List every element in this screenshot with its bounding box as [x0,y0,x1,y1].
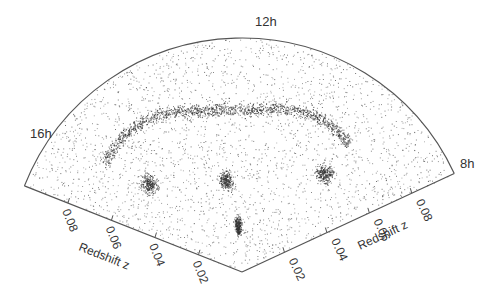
galaxy-point [223,100,224,101]
galaxy-point [96,160,97,161]
galaxy-point [254,244,255,245]
galaxy-point [232,184,233,185]
galaxy-point [78,124,79,125]
galaxy-point [241,111,242,112]
galaxy-point [321,65,322,66]
galaxy-point [157,116,158,117]
galaxy-point [191,83,192,84]
galaxy-point [300,155,301,156]
galaxy-point [327,63,328,64]
galaxy-point [417,174,418,175]
galaxy-point [102,152,103,153]
galaxy-point [372,80,373,81]
galaxy-point [291,133,292,134]
galaxy-point [333,134,334,135]
galaxy-point [261,162,262,163]
galaxy-point [271,101,272,102]
galaxy-point [133,87,134,88]
galaxy-point [229,114,230,115]
galaxy-point [200,142,201,143]
galaxy-point [331,166,332,167]
galaxy-point [227,186,228,187]
galaxy-point [304,115,305,116]
galaxy-point [281,107,282,108]
galaxy-point [306,148,307,149]
galaxy-point [364,122,365,123]
galaxy-point [268,188,269,189]
galaxy-point [281,104,282,105]
galaxy-point [121,142,122,143]
galaxy-point [358,130,359,131]
galaxy-point [280,110,281,111]
galaxy-point [225,152,226,153]
galaxy-point [115,139,116,140]
galaxy-point [180,159,181,160]
galaxy-point [297,110,298,111]
galaxy-point [105,167,106,168]
galaxy-point [57,152,58,153]
galaxy-point [257,111,258,112]
galaxy-point [325,117,326,118]
galaxy-point [138,108,139,109]
galaxy-point [204,142,205,143]
galaxy-point [128,99,129,100]
galaxy-point [121,158,122,159]
galaxy-point [235,225,236,226]
galaxy-point [168,113,169,114]
galaxy-point [167,115,168,116]
galaxy-point [274,47,275,48]
galaxy-point [311,137,312,138]
galaxy-point [282,71,283,72]
galaxy-point [239,104,240,105]
galaxy-point [123,215,124,216]
galaxy-point [261,230,262,231]
galaxy-point [113,145,114,146]
galaxy-point [65,121,66,122]
galaxy-point [287,238,288,239]
galaxy-point [247,217,248,218]
galaxy-point [110,145,111,146]
galaxy-point [162,58,163,59]
galaxy-point [208,236,209,237]
galaxy-point [227,183,228,184]
galaxy-point [146,130,147,131]
galaxy-point [441,152,442,153]
galaxy-point [118,138,119,139]
galaxy-point [320,122,321,123]
galaxy-point [184,153,185,154]
galaxy-point [211,107,212,108]
galaxy-point [311,115,312,116]
galaxy-point [62,167,63,168]
galaxy-point [353,149,354,150]
galaxy-point [169,230,170,231]
galaxy-point [306,118,307,119]
galaxy-point [73,179,74,180]
galaxy-point [338,144,339,145]
galaxy-point [140,126,141,127]
galaxy-point [329,180,330,181]
galaxy-point [107,102,108,103]
galaxy-point [295,87,296,88]
galaxy-point [133,122,134,123]
galaxy-point [110,166,111,167]
galaxy-point [53,194,54,195]
galaxy-point [172,141,173,142]
galaxy-point [339,133,340,134]
galaxy-point [183,182,184,183]
galaxy-point [56,134,57,135]
galaxy-point [219,116,220,117]
galaxy-point [97,90,98,91]
galaxy-point [333,123,334,124]
galaxy-point [164,91,165,92]
galaxy-point [186,242,187,243]
galaxy-point [114,144,115,145]
galaxy-point [328,168,329,169]
galaxy-point [118,92,119,93]
galaxy-point [418,157,419,158]
galaxy-point [140,228,141,229]
galaxy-point [248,136,249,137]
galaxy-point [133,205,134,206]
galaxy-point [324,123,325,124]
galaxy-point [296,190,297,191]
galaxy-point [196,109,197,110]
